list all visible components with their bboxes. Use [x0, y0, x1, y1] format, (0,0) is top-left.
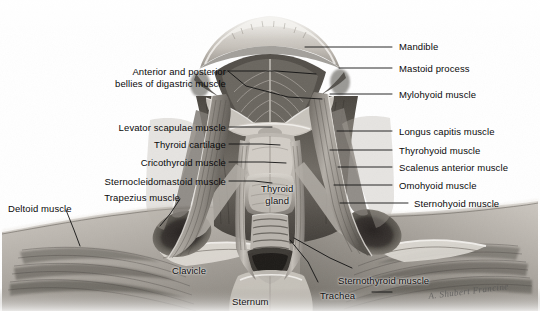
label-line: Thyroid	[261, 183, 293, 195]
label-line: Scalenus anterior muscle	[399, 162, 508, 174]
label-deltoid: Deltoid muscle	[8, 203, 103, 215]
anatomy-illustration	[0, 0, 540, 319]
label-line: Clavicle	[172, 265, 206, 277]
label-mandible: Mandible	[399, 41, 438, 53]
anatomy-figure: Anterior and posteriorbellies of digastr…	[0, 0, 540, 319]
label-scalenus-anterior: Scalenus anterior muscle	[399, 162, 508, 174]
label-line: Trapezius muscle	[70, 192, 180, 204]
label-longus-capitis: Longus capitis muscle	[399, 126, 495, 138]
label-clavicle: Clavicle	[172, 265, 206, 277]
label-sternohyoid: Sternohyoid muscle	[414, 198, 499, 210]
label-line: Levator scapulae muscle	[82, 122, 226, 134]
label-line: Cricothyroid muscle	[104, 157, 226, 169]
label-thyroid-cartilage: Thyroid cartilage	[118, 139, 226, 151]
label-sternum: Sternum	[232, 296, 269, 308]
label-line: Sternocleidomastoid muscle	[40, 176, 226, 188]
label-line: Mylohyoid muscle	[399, 89, 476, 101]
label-line: Sternothyroid muscle	[338, 275, 429, 287]
label-mylohyoid: Mylohyoid muscle	[399, 89, 476, 101]
label-thyrohyoid: Thyrohyoid muscle	[399, 145, 480, 157]
label-line: Thyrohyoid muscle	[399, 145, 480, 157]
label-levator-scapulae: Levator scapulae muscle	[82, 122, 226, 134]
label-line: Longus capitis muscle	[399, 126, 495, 138]
label-line: Sternum	[232, 296, 269, 308]
label-line: Thyroid cartilage	[118, 139, 226, 151]
label-line: Anterior and posterior	[66, 66, 226, 78]
label-trachea: Trachea	[320, 290, 355, 302]
label-line: bellies of digastric muscle	[66, 78, 226, 90]
label-sternocleidomastoid: Sternocleidomastoid muscle	[40, 176, 226, 188]
label-digastric: Anterior and posteriorbellies of digastr…	[66, 66, 226, 89]
label-line: Trachea	[320, 290, 355, 302]
label-cricothyroid: Cricothyroid muscle	[104, 157, 226, 169]
label-thyroid-gland: Thyroidgland	[261, 183, 293, 206]
label-mastoid-process: Mastoid process	[399, 63, 470, 75]
label-line: Omohyoid muscle	[399, 180, 477, 192]
label-line: Sternohyoid muscle	[414, 198, 499, 210]
label-line: Mandible	[399, 41, 438, 53]
label-trapezius: Trapezius muscle	[70, 192, 180, 204]
label-sternothyroid: Sternothyroid muscle	[338, 275, 429, 287]
label-omohyoid: Omohyoid muscle	[399, 180, 477, 192]
label-line: gland	[261, 195, 293, 207]
label-line: Mastoid process	[399, 63, 470, 75]
label-line: Deltoid muscle	[8, 203, 103, 215]
